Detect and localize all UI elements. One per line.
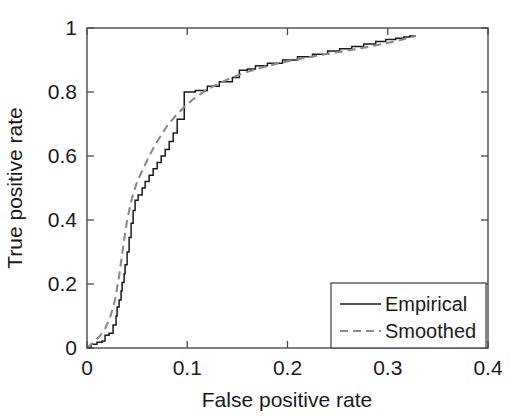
roc-plot-canvas: 00.10.20.30.400.20.40.60.81 False positi…	[0, 0, 518, 417]
y-tick-label: 0	[65, 336, 77, 359]
x-tick-label: 0.2	[273, 356, 302, 379]
roc-chart-figure: 00.10.20.30.400.20.40.60.81 False positi…	[0, 0, 518, 417]
legend-label-smoothed: Smoothed	[385, 320, 476, 342]
legend: Empirical Smoothed	[331, 283, 486, 348]
y-tick-label: 0.8	[48, 80, 77, 103]
y-tick-label: 0.4	[48, 208, 78, 231]
y-axis-title: True positive rate	[3, 107, 26, 268]
y-tick-label: 0.2	[48, 272, 77, 295]
y-tick-label: 1	[65, 16, 77, 39]
x-axis-title: False positive rate	[202, 388, 372, 411]
legend-label-empirical: Empirical	[385, 293, 467, 315]
x-tick-label: 0.3	[373, 356, 402, 379]
x-tick-label: 0.1	[173, 356, 202, 379]
x-tick-label: 0.4	[473, 356, 503, 379]
x-tick-label: 0	[81, 356, 93, 379]
y-tick-label: 0.6	[48, 144, 77, 167]
